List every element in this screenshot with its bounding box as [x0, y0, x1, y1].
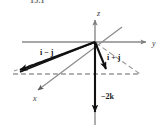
figure-container: 15.1 y z x — [0, 0, 165, 127]
vector-resultant-lower-line — [20, 42, 95, 72]
vector-i-plus-j-label: i + j — [107, 53, 121, 62]
parallelogram-dashed-lines — [13, 43, 140, 74]
vector-i-minus-j-label: i − j — [40, 48, 54, 57]
z-axis-label: z — [96, 9, 101, 18]
vector-i-plus-j-arrow — [95, 42, 106, 69]
vector-diagram: y z x i − j — [0, 0, 165, 127]
vector-resultant-lower — [20, 42, 95, 72]
vector-minus-2k-label: −2k — [101, 92, 115, 101]
vector-i-plus-j: i + j — [95, 42, 121, 69]
y-axis-label: y — [151, 39, 156, 48]
x-axis-label: x — [32, 94, 37, 103]
